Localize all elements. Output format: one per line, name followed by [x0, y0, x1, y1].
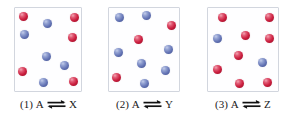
panel-1-caption: (1) A X	[20, 99, 77, 110]
panel-3-caption: (3) A Z	[215, 99, 271, 110]
blue-sphere	[43, 19, 52, 28]
panel-2-reactant-label: A	[132, 99, 140, 110]
reaction-box-2	[108, 7, 180, 92]
red-sphere	[112, 73, 121, 82]
red-sphere	[18, 67, 27, 76]
blue-sphere	[140, 79, 149, 88]
blue-sphere	[114, 48, 123, 57]
red-sphere	[218, 13, 227, 22]
blue-sphere	[142, 11, 151, 20]
red-sphere	[134, 35, 143, 44]
red-sphere	[69, 77, 78, 86]
equilibrium-diagram: (1) A X (2) A Y	[0, 0, 294, 125]
red-sphere	[213, 65, 222, 74]
panel-1	[14, 7, 82, 92]
red-sphere	[70, 13, 79, 22]
blue-sphere	[60, 61, 69, 70]
blue-sphere	[258, 58, 267, 67]
panel-2-caption-number: (2)	[116, 99, 129, 110]
blue-sphere	[213, 34, 222, 43]
blue-sphere	[39, 78, 48, 87]
panel-2	[108, 7, 180, 92]
red-sphere	[265, 34, 274, 43]
red-sphere	[263, 78, 272, 87]
reaction-box-1	[14, 7, 82, 92]
red-sphere	[68, 33, 77, 42]
panel-1-reactant-label: A	[36, 99, 44, 110]
blue-sphere	[161, 66, 170, 75]
panel-2-caption: (2) A Y	[116, 99, 173, 110]
panel-2-product-label: Y	[165, 99, 173, 110]
equilibrium-arrow-icon	[242, 99, 261, 110]
reaction-box-3	[207, 7, 279, 92]
red-sphere	[167, 21, 176, 30]
blue-sphere	[42, 52, 51, 61]
panel-3-product-label: Z	[264, 99, 271, 110]
red-sphere	[234, 51, 243, 60]
panel-3	[207, 7, 279, 92]
panel-3-reactant-label: A	[231, 99, 239, 110]
red-sphere	[265, 13, 274, 22]
panel-1-product-label: X	[69, 99, 77, 110]
panel-1-caption-number: (1)	[20, 99, 33, 110]
equilibrium-arrow-icon	[143, 99, 162, 110]
red-sphere	[241, 31, 250, 40]
red-sphere	[235, 79, 244, 88]
blue-sphere	[137, 59, 146, 68]
equilibrium-arrow-icon	[47, 99, 66, 110]
red-sphere	[19, 12, 28, 21]
blue-sphere	[164, 45, 173, 54]
panel-3-caption-number: (3)	[215, 99, 228, 110]
blue-sphere	[20, 30, 29, 39]
blue-sphere	[115, 13, 124, 22]
